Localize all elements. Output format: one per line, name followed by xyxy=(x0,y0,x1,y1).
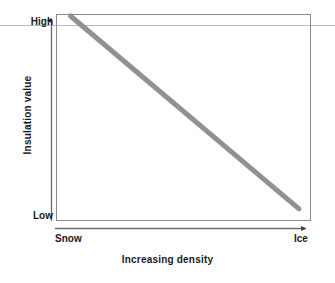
x-axis-title: Increasing density xyxy=(0,255,335,265)
y-axis-tick-high: High xyxy=(31,17,53,27)
data-series-line xyxy=(0,0,335,283)
x-axis-tick-snow: Snow xyxy=(55,234,82,244)
trend-line xyxy=(71,16,300,209)
y-axis-tick-low: Low xyxy=(33,211,53,221)
chart-figure: High Low Snow Ice Increasing density Ins… xyxy=(0,0,335,283)
x-axis-tick-ice: Ice xyxy=(294,234,308,244)
y-axis-title: Insulation value xyxy=(23,45,33,185)
